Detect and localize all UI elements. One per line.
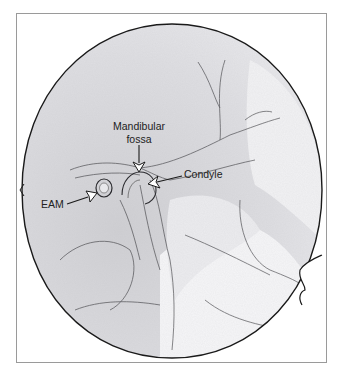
mandibular-fossa-label: Mandibular fossa — [108, 120, 170, 146]
mandibular-fossa-label-line2: fossa — [108, 133, 170, 146]
mandibular-fossa-label-line1: Mandibular — [108, 120, 170, 133]
radiograph-content — [0, 0, 343, 380]
eam-label: EAM — [41, 198, 64, 211]
condyle-label: Condyle — [184, 168, 223, 181]
radiograph-image — [0, 0, 343, 380]
